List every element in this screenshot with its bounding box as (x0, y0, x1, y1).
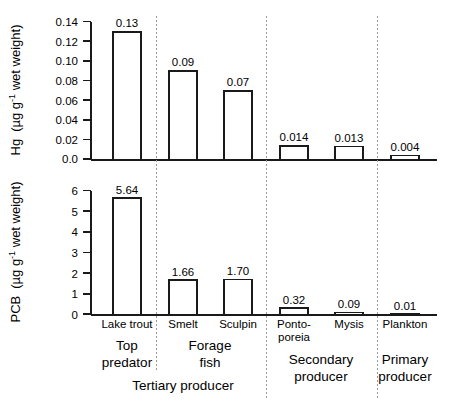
pcb-y-tick-labels: 6 5 4 3 2 1 0 (72, 185, 79, 321)
pcb-ytick-label: 3 (72, 247, 78, 259)
svg-text:Hg(µg g-1 wet weight): Hg(µg g-1 wet weight) (7, 25, 23, 156)
value-label-hg: 0.004 (391, 141, 420, 153)
pcb-axis-title-units-sup: -1 (7, 251, 17, 259)
hg-ytick-label: 0.10 (56, 55, 78, 67)
hg-axis-title: Hg(µg g-1 wet weight) (7, 25, 23, 156)
value-label-pcb: 5.64 (116, 184, 139, 196)
panel-hg: Hg(µg g-1 wet weight) 0.14 0.1 (7, 16, 437, 165)
bar-hg-smelt[interactable] (169, 71, 197, 159)
hg-value-labels: 0.13 0.09 0.07 0.014 0.013 0.004 (116, 17, 420, 153)
group-label-primary-producer-line1: Primary (382, 352, 429, 367)
pcb-ytick-label: 4 (72, 226, 79, 238)
pcb-axis-title-main: PCB (8, 296, 23, 323)
bar-pcb-lake-trout[interactable] (113, 198, 141, 315)
pcb-ytick-label: 2 (72, 268, 78, 280)
bar-pcb-smelt[interactable] (169, 280, 197, 314)
value-label-hg: 0.13 (116, 17, 138, 29)
panel-pcb: PCB(µg g-1 wet weight) 6 5 4 3 2 1 (7, 181, 437, 322)
pcb-ytick-label: 5 (72, 206, 78, 218)
pcb-y-ticks (83, 191, 91, 315)
figure-container: Hg(µg g-1 wet weight) 0.14 0.1 (0, 0, 454, 408)
bar-hg-sculpin[interactable] (224, 91, 252, 160)
value-label-hg: 0.014 (280, 131, 309, 143)
pcb-ytick-label: 1 (72, 288, 78, 300)
value-label-hg: 0.07 (227, 76, 249, 88)
category-label-sculpin: Sculpin (219, 318, 257, 330)
value-label-pcb: 0.32 (283, 294, 305, 306)
value-label-hg: 0.09 (172, 56, 194, 68)
bar-pcb-sculpin[interactable] (224, 279, 252, 314)
bar-hg-plankton[interactable] (391, 156, 419, 160)
value-label-pcb: 1.70 (227, 265, 249, 277)
group-label-secondary-producer-line2: producer (294, 369, 348, 384)
category-labels: Lake trout Smelt Sculpin Ponto- poreia M… (101, 318, 427, 343)
pcb-axis-title: PCB(µg g-1 wet weight) (7, 181, 23, 322)
hg-ytick-label: 0.06 (56, 95, 78, 107)
category-label-plankton: Plankton (383, 318, 428, 330)
pcb-axis-title-units-pre: (µg g (8, 259, 23, 289)
hg-ytick-label: 0.04 (56, 114, 79, 126)
value-label-pcb: 0.01 (394, 300, 416, 312)
hg-y-tick-labels: 0.14 0.12 0.10 0.08 0.06 0.04 0.02 0.0 (56, 16, 79, 165)
group-label-top-predator-line2: predator (102, 355, 153, 370)
hg-axis-title-units-pre: (µg g (8, 102, 23, 132)
value-label-hg: 0.013 (335, 132, 364, 144)
pcb-ytick-label: 0 (72, 309, 78, 321)
pcb-axis-title-units-post: wet weight) (8, 181, 23, 250)
group-label-forage-fish-line2: fish (199, 355, 220, 370)
chart-svg: Hg(µg g-1 wet weight) 0.14 0.1 (0, 0, 454, 408)
hg-axis-title-main: Hg (8, 139, 23, 156)
bar-hg-mysis[interactable] (335, 147, 363, 160)
group-label-top-predator-line1: Top (116, 338, 138, 353)
pcb-ytick-label: 6 (72, 185, 78, 197)
hg-y-ticks (83, 22, 91, 160)
group-label-forage-fish-line1: Forage (189, 338, 232, 353)
hg-ytick-label: 0.14 (56, 16, 79, 28)
category-label-lake-trout: Lake trout (101, 318, 153, 330)
hg-axis-title-units-sup: -1 (7, 94, 17, 102)
svg-text:PCB(µg g-1 wet weight): PCB(µg g-1 wet weight) (7, 181, 23, 322)
bar-pcb-mysis[interactable] (335, 313, 363, 315)
category-label-mysis: Mysis (334, 318, 364, 330)
category-label-smelt: Smelt (168, 318, 198, 330)
group-label-secondary-producer-line1: Secondary (289, 352, 354, 367)
hg-ytick-label: 0.12 (56, 36, 78, 48)
hg-axis-title-units-post: wet weight) (8, 25, 23, 94)
value-label-pcb: 1.66 (172, 266, 194, 278)
hg-ytick-label: 0.08 (56, 75, 78, 87)
bar-pcb-pontoporeia[interactable] (280, 308, 308, 315)
group-label-tertiary-producer: Tertiary producer (132, 378, 234, 393)
category-label-pontoporeia: Ponto- (277, 318, 311, 330)
value-label-pcb: 0.09 (338, 298, 360, 310)
bar-hg-lake-trout[interactable] (113, 32, 141, 160)
hg-ytick-label: 0.0 (62, 153, 78, 165)
group-label-primary-producer-line2: producer (378, 369, 432, 384)
category-label-pontoporeia-line2: poreia (278, 331, 311, 343)
hg-ytick-label: 0.02 (56, 134, 78, 146)
bar-hg-pontoporeia[interactable] (280, 146, 308, 160)
group-labels-level2: Tertiary producer (132, 378, 234, 393)
